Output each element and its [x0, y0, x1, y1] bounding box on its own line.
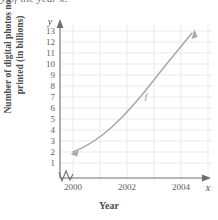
xtick-2002: 2002	[118, 182, 136, 192]
x-axis-title: Year	[0, 200, 218, 211]
axis-break-zigzag	[59, 171, 73, 181]
chart-plot-area: 13 12 11 10 9 8 7 6 5 4 3 2 1 2000 2002 …	[0, 0, 218, 220]
ytick-13: 13	[46, 26, 56, 36]
ytick-7: 7	[51, 92, 56, 102]
y-axis-tick-labels: 13 12 11 10 9 8 7 6 5 4 3 2 1	[46, 26, 56, 168]
data-curve	[71, 30, 198, 157]
curve-label-f: f	[145, 91, 149, 101]
ytick-1: 1	[51, 158, 56, 168]
xtick-2000: 2000	[64, 182, 83, 192]
grid-lines-vertical	[73, 24, 208, 182]
ytick-11: 11	[46, 48, 55, 58]
ytick-3: 3	[51, 136, 56, 146]
x-axis-line	[60, 175, 211, 182]
chart-figure: Number of digital photos not printed (in…	[0, 0, 218, 220]
ytick-6: 6	[51, 103, 56, 113]
ytick-8: 8	[51, 81, 56, 91]
ytick-2: 2	[51, 147, 56, 157]
y-axis-line	[57, 19, 64, 178]
x-axis-tick-labels: 2000 2002 2004	[64, 182, 191, 192]
y-axis-variable-label: y	[47, 16, 53, 27]
grid-lines-horizontal	[60, 31, 212, 163]
xtick-2004: 2004	[172, 182, 191, 192]
x-axis-variable-label: x	[205, 182, 211, 193]
ytick-4: 4	[51, 125, 56, 135]
ytick-10: 10	[46, 59, 56, 69]
ytick-5: 5	[51, 114, 56, 124]
ytick-9: 9	[51, 70, 56, 80]
ytick-12: 12	[46, 37, 55, 47]
